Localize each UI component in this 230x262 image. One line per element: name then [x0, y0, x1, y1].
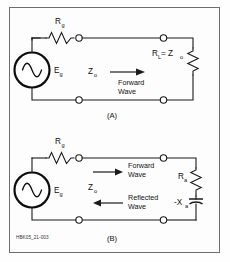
wire-to-load-top — [167, 38, 193, 48]
terminal-node-bottom-left — [76, 97, 82, 103]
panel-a-circuit — [15, 33, 199, 104]
terminal-node-top-right-b — [160, 155, 166, 161]
label-rg-sub-a: g — [62, 22, 65, 28]
forward-arrow-head-b — [115, 169, 123, 176]
wire-source-bottom — [32, 88, 76, 100]
label-ra-sub-b: a — [184, 177, 188, 183]
terminal-node-bottom-right — [160, 97, 166, 103]
label-zo-sub-a: o — [94, 72, 97, 78]
label-rg-b: R — [55, 137, 61, 146]
label-zo-sub-b: o — [94, 188, 97, 194]
wire-to-load-top-b — [167, 158, 196, 168]
terminal-node-top-left-b — [76, 155, 82, 161]
label-forward-wave-line1-a: Forward — [118, 78, 144, 87]
label-forward-line2-b: Wave — [128, 170, 146, 179]
forward-arrow-head-a — [136, 68, 145, 75]
label-reflected-line1-b: Reflected — [128, 193, 158, 202]
label-eg-sub-a: g — [60, 71, 63, 77]
label-rl-equals-sub-a: o — [180, 54, 183, 60]
terminal-node-top-left — [76, 35, 82, 41]
label-eg-sub-b: g — [60, 191, 63, 197]
label-forward-line1-b: Forward — [128, 161, 154, 170]
label-zo-a: Z — [88, 67, 93, 76]
figure-id-code: HBK05_21-003 — [16, 235, 49, 240]
circuit-canvas: R g E g Z o Forward Wave R L = Z o (A) — [0, 0, 230, 262]
label-zo-b: Z — [88, 183, 93, 192]
label-rl-equals-a: = Z — [161, 49, 173, 58]
label-forward-wave-line2-a: Wave — [118, 87, 136, 96]
terminal-node-top-right — [160, 35, 166, 41]
resistor-rg-symbol — [46, 33, 74, 44]
resistor-rl-symbol — [188, 48, 198, 75]
panel-b-caption: (B) — [107, 234, 118, 243]
panel-b-circuit — [15, 153, 204, 224]
reflected-arrow-head-b — [93, 200, 101, 207]
label-reflected-line2-b: Wave — [128, 202, 146, 211]
resistor-rg-symbol-b — [46, 153, 74, 164]
label-rg-a: R — [55, 17, 61, 26]
wire-source-bottom-b — [32, 208, 76, 220]
transmission-line-figure: R g E g Z o Forward Wave R L = Z o (A) — [0, 0, 230, 262]
label-xa-b: -X — [174, 198, 183, 207]
terminal-node-bottom-right-b — [160, 217, 166, 223]
label-rg-sub-b: g — [62, 142, 65, 148]
wire-load-bottom — [167, 75, 193, 100]
label-xa-sub-b: a — [185, 203, 189, 209]
panel-a-caption: (A) — [107, 111, 118, 120]
terminal-node-bottom-left-b — [76, 217, 82, 223]
resistor-ra-symbol — [191, 168, 201, 196]
